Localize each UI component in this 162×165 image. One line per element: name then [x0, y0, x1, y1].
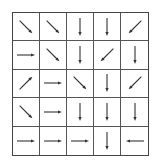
- arrow-down-icon: [96, 101, 118, 123]
- arrow-right-icon: [15, 44, 37, 66]
- arrow-down-icon: [69, 44, 91, 66]
- grid-cell: [67, 13, 94, 41]
- grid-cell: [13, 98, 40, 126]
- grid-cell: [40, 98, 67, 126]
- arrow-right-icon: [42, 130, 64, 152]
- arrow-down-left-icon: [124, 16, 146, 38]
- grid-cell: [13, 70, 40, 98]
- arrow-down-icon: [124, 101, 146, 123]
- grid-cell: [40, 41, 67, 69]
- arrow-down-left-icon: [96, 44, 118, 66]
- grid-cell: [67, 41, 94, 69]
- grid-cell: [94, 13, 121, 41]
- arrow-right-icon: [15, 130, 37, 152]
- grid-cell: [13, 13, 40, 41]
- grid-cell: [40, 13, 67, 41]
- arrow-down-icon: [96, 130, 118, 152]
- grid-cell: [67, 98, 94, 126]
- arrow-right-icon: [69, 130, 91, 152]
- arrow-down-right-icon: [69, 72, 91, 94]
- arrow-down-right-icon: [42, 16, 64, 38]
- arrow-down-icon: [124, 44, 146, 66]
- arrow-down-right-icon: [42, 44, 64, 66]
- arrow-right-icon: [42, 72, 64, 94]
- arrow-down-icon: [96, 16, 118, 38]
- grid-cell: [40, 127, 67, 155]
- grid-cell: [121, 13, 148, 41]
- arrow-down-icon: [69, 101, 91, 123]
- grid-cell: [121, 70, 148, 98]
- grid-cell: [13, 41, 40, 69]
- arrow-down-right-icon: [15, 101, 37, 123]
- grid-cell: [94, 127, 121, 155]
- grid-cell: [94, 41, 121, 69]
- arrow-down-icon: [96, 72, 118, 94]
- grid-cell: [67, 127, 94, 155]
- arrow-left-icon: [124, 130, 146, 152]
- policy-grid: [12, 12, 149, 156]
- grid-cell: [121, 127, 148, 155]
- arrow-up-right-icon: [15, 72, 37, 94]
- grid-cell: [121, 98, 148, 126]
- arrow-down-left-icon: [124, 72, 146, 94]
- grid-cell: [121, 41, 148, 69]
- arrow-down-right-icon: [15, 16, 37, 38]
- arrow-down-icon: [69, 16, 91, 38]
- grid-cell: [94, 98, 121, 126]
- grid-cell: [40, 70, 67, 98]
- grid-cell: [67, 70, 94, 98]
- grid-cell: [13, 127, 40, 155]
- arrow-right-icon: [42, 101, 64, 123]
- grid-cell: [94, 70, 121, 98]
